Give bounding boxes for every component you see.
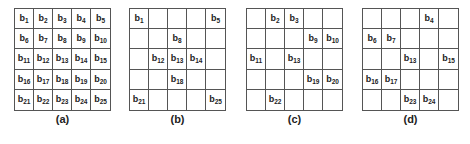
cell-index: 24	[428, 98, 435, 105]
grid-cell: b22	[266, 90, 285, 110]
grid-cell: b1	[130, 9, 149, 29]
cell-index: 21	[138, 98, 145, 105]
grid-cell: b8	[168, 29, 187, 49]
grid-cell	[285, 90, 304, 110]
grid-cell: b2	[266, 9, 285, 29]
cell-index: 24	[80, 98, 87, 105]
caption-d: (d)	[362, 113, 459, 125]
grid-cell	[401, 9, 420, 29]
grid-cell: b25	[91, 90, 110, 110]
cell-symbol: b2	[270, 13, 279, 24]
grid-cell: b6	[363, 29, 382, 49]
cell-symbol: b4	[76, 13, 85, 24]
caption-b: (b)	[129, 113, 226, 125]
cell-index: 14	[80, 57, 87, 64]
cell-symbol: b14	[75, 53, 88, 64]
cell-symbol: b23	[404, 94, 417, 105]
cell-symbol: b21	[18, 94, 31, 105]
cell-index: 2	[276, 17, 280, 24]
grid-a: b1b2b3b4b5b6b7b8b9b10b11b12b13b14b15b16b…	[14, 8, 111, 111]
cell-symbol: b11	[250, 53, 262, 64]
cell-symbol: b6	[19, 33, 28, 44]
grid-cell	[439, 29, 458, 49]
grid-cell	[149, 70, 168, 90]
grid-cell: b8	[53, 29, 72, 49]
grid-cell: b4	[72, 9, 91, 29]
grid-cell: b6	[15, 29, 34, 49]
grid-cell	[187, 29, 206, 49]
grid-cell	[420, 29, 439, 49]
cell-index: 14	[195, 57, 202, 64]
cell-index: 17	[390, 78, 397, 85]
grid-cell: b22	[34, 90, 53, 110]
grid-cell: b17	[382, 70, 401, 90]
grid-cell: b19	[304, 70, 323, 90]
cell-symbol: b20	[94, 74, 107, 85]
cell-symbol: b10	[94, 33, 107, 44]
grid-cell: b23	[401, 90, 420, 110]
grid-d: b4b6b7b13b15b16b17b23b24	[362, 8, 459, 111]
grid-cell: b19	[72, 70, 91, 90]
grid-cell: b15	[439, 49, 458, 69]
cell-symbol: b14	[190, 53, 203, 64]
grid-cell	[304, 49, 323, 69]
cell-index: 25	[100, 98, 107, 105]
cell-symbol: b25	[94, 94, 107, 105]
cell-symbol: b4	[424, 13, 433, 24]
cell-symbol: b19	[75, 74, 88, 85]
cell-index: 16	[23, 78, 30, 85]
grid-cell: b21	[130, 90, 149, 110]
cell-symbol: b17	[37, 74, 50, 85]
cell-symbol: b24	[75, 94, 88, 105]
grid-cell	[382, 90, 401, 110]
cell-symbol: b19	[307, 74, 320, 85]
grid-cell: b12	[34, 49, 53, 69]
grid-cell	[363, 90, 382, 110]
cell-symbol: b7	[386, 33, 395, 44]
grid-cell	[285, 70, 304, 90]
grid-cell	[130, 29, 149, 49]
cell-index: 23	[409, 98, 416, 105]
grid-cell	[149, 29, 168, 49]
grid-cell: b24	[72, 90, 91, 110]
cell-symbol: b11	[18, 53, 30, 64]
cell-index: 19	[312, 78, 319, 85]
panel-c: b2b3b9b10b11b13b19b20b22	[246, 8, 343, 111]
grid-cell: b3	[285, 9, 304, 29]
grid-cell: b20	[91, 70, 110, 90]
grid-cell: b11	[15, 49, 34, 69]
cell-index: 15	[448, 57, 455, 64]
cell-symbol: b8	[172, 33, 181, 44]
panel-b: b1b5b8b12b13b14b18b21b25	[129, 8, 226, 111]
grid-cell: b25	[206, 90, 225, 110]
cell-index: 5	[216, 17, 220, 24]
cell-index: 1	[140, 17, 144, 24]
cell-symbol: b12	[152, 53, 165, 64]
grid-cell	[266, 29, 285, 49]
cell-symbol: b8	[57, 33, 66, 44]
cell-index: 4	[82, 17, 86, 24]
cell-symbol: b12	[37, 53, 50, 64]
cell-index: 18	[176, 78, 183, 85]
grid-cell	[130, 70, 149, 90]
cell-index: 6	[25, 37, 29, 44]
cell-symbol: b20	[326, 74, 339, 85]
grid-cell: b5	[206, 9, 225, 29]
cell-index: 3	[63, 17, 67, 24]
cell-symbol: b13	[56, 53, 69, 64]
cell-symbol: b13	[288, 53, 301, 64]
grid-cell: b24	[420, 90, 439, 110]
cell-index: 20	[100, 78, 107, 85]
cell-symbol: b18	[56, 74, 69, 85]
cell-index: 11	[255, 57, 262, 64]
cell-index: 10	[332, 37, 339, 44]
grid-cell	[168, 90, 187, 110]
cell-symbol: b24	[423, 94, 436, 105]
grid-cell: b16	[15, 70, 34, 90]
cell-index: 25	[215, 98, 222, 105]
grid-cell	[130, 49, 149, 69]
cell-symbol: b22	[37, 94, 50, 105]
cell-index: 11	[23, 57, 30, 64]
cell-index: 10	[100, 37, 107, 44]
grid-cell: b13	[168, 49, 187, 69]
